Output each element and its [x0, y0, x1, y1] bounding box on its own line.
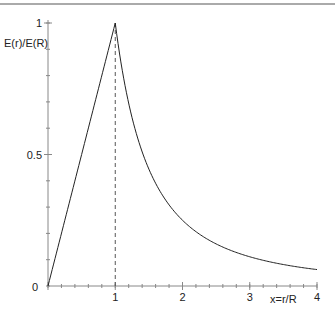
y-tick-label: 0.5: [27, 149, 42, 161]
x-tick-label: 0: [32, 281, 38, 293]
x-tick-label: 1: [112, 291, 118, 303]
x-tick-label: 3: [247, 291, 253, 303]
x-tick-label: 2: [179, 291, 185, 303]
series-line: [48, 23, 317, 286]
axes: [48, 20, 317, 286]
chart: 012340.51 E(r)/E(R) x=r/R: [0, 0, 335, 319]
ticks: 012340.51: [27, 17, 320, 303]
y-tick-label: 1: [36, 17, 42, 29]
series: [48, 23, 317, 286]
y-axis-label: E(r)/E(R): [4, 37, 48, 49]
x-tick-label: 4: [314, 291, 320, 303]
x-axis-label: x=r/R: [270, 293, 297, 305]
